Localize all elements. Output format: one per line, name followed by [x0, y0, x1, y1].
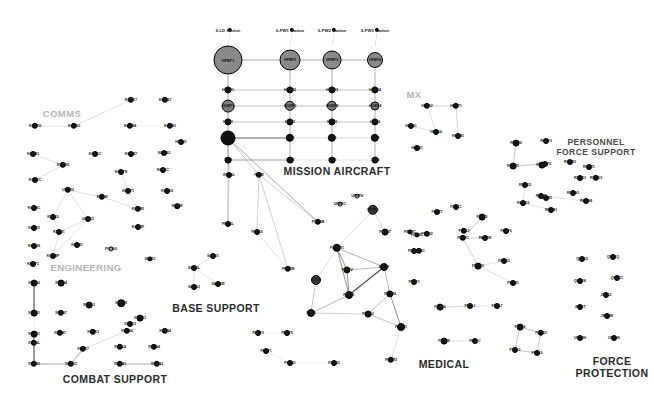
graph-node-label: RGBB1: [540, 196, 552, 200]
graph-node-label: HFBA4: [430, 130, 441, 134]
graph-node-label: HGBP3: [326, 104, 338, 108]
graph-node-label: FEBB6: [434, 305, 445, 309]
graph-node-label: XGBB4: [55, 281, 67, 285]
graph-node-label: HFBP4: [369, 58, 380, 62]
graph-node-label: XGBK8: [115, 301, 127, 305]
graph-node-label: HGB3: [327, 120, 337, 124]
station-label: 6-LD Station: [216, 28, 241, 33]
graph-node-label: XGBK3: [124, 322, 136, 326]
graph-node-label: UFMP4: [351, 194, 363, 198]
cluster-label-base-support: BASE SUPPORT: [172, 302, 260, 314]
graph-node-label: KGBD0: [161, 189, 173, 193]
graph-node-label: KGBTN: [115, 170, 127, 174]
graph-node-label: HFBP2: [284, 58, 296, 62]
graph-node-label: XGBB1: [28, 332, 40, 336]
graph-node-label: FBBE: [254, 173, 263, 177]
graph-node-label: RGBN1: [567, 191, 579, 195]
graph-node-label: XGBK3: [87, 330, 99, 334]
graph-node-label: KFBE3: [28, 226, 39, 230]
graph-node-label: FEBH1: [343, 293, 354, 297]
cluster-label-mx: MX: [406, 90, 421, 101]
cluster-label-combat-support: COMBAT SUPPORT: [63, 373, 168, 385]
graph-node-label: RGBD3: [590, 176, 602, 180]
graph-node-label: XWBA2: [151, 362, 163, 366]
graph-node-label: FEBB8: [438, 339, 449, 343]
graph-node-label: KGBK7: [125, 98, 137, 102]
network-diagram-canvas: HFBP1HFBP2HFBP3HFBP4HFBB1HFBB2HFBB3HFBB4…: [0, 0, 654, 403]
graph-node-label: HFBM1: [452, 134, 464, 138]
graph-node-label: SABG1: [207, 254, 219, 258]
graph-node-label: RGBD3: [517, 201, 529, 205]
graph-node-label: KFBAL: [223, 173, 235, 177]
graph-node-label: PKBAL: [222, 222, 234, 226]
graph-node-label: FEBT7: [432, 210, 443, 214]
station-label: 6-PW2 Station: [318, 28, 346, 33]
graph-node-label: NGBCC: [157, 168, 170, 172]
graph-node-label: FKBGM: [282, 267, 295, 271]
graph-node-label: HFBB1: [222, 88, 234, 92]
graph-node-label: XGBK4: [114, 345, 126, 349]
graph-node-label: JFBHW: [601, 314, 613, 318]
graph-node-label: FEBBC: [404, 230, 416, 234]
graph-node-label: UFMKX: [82, 217, 94, 221]
graph-node-label: FEBP6: [500, 229, 511, 233]
graph-node-label: KGBT1: [122, 189, 134, 193]
graph-node-label: XGBB7: [54, 331, 66, 335]
graph-node-label: FEBB2: [421, 232, 432, 236]
graph-node-label: 36B2: [286, 158, 294, 162]
graph-node-label: HGB1: [223, 120, 233, 124]
graph-node-label: FEBT5: [477, 215, 488, 219]
graph-node-label: QFBK0: [576, 257, 588, 261]
graph-node-label: UFBHK: [608, 336, 620, 340]
station-label: 6-PW3 Station: [361, 28, 389, 33]
graph-node-label: KGBM1: [132, 207, 144, 211]
graph-node-label: FEBL2: [459, 229, 470, 233]
graph-node-label: XGBA4: [148, 345, 160, 349]
graph-node-label: FEBP1: [408, 280, 419, 284]
graph-node-label: FEBM3: [385, 358, 397, 362]
graph-node-label: FEBL9: [515, 325, 526, 329]
graph-node-label: 36B1: [224, 158, 232, 162]
station-label: 6-PW1 Station: [276, 28, 304, 33]
graph-node-label: FEBBR1: [330, 246, 344, 250]
cluster-label-mission-aircraft: MISSION AIRCRAFT: [284, 165, 391, 177]
graph-node-label: FEBC1: [450, 205, 461, 209]
cluster-label-medical: MEDICAL: [419, 358, 470, 370]
graph-node-label: FEBM1: [395, 325, 407, 329]
graph-node-label: RGBB1: [545, 208, 557, 212]
graph-node-label: 36A2: [286, 136, 294, 140]
graph-node-label: RGBD5: [519, 183, 531, 187]
graph-node-label: KGBK0: [68, 124, 80, 128]
graph-node-label: SABG3: [188, 285, 200, 289]
graph-node-label: UFMEC: [334, 202, 346, 206]
graph-node-label: KGBB1: [164, 124, 176, 128]
graph-node-label: FEBP1: [260, 349, 271, 353]
graph-node-label: HGBP1: [222, 104, 234, 108]
graph-node-label: 36A4: [371, 136, 379, 140]
graph-node-label: HFBH1: [175, 140, 186, 144]
cluster-label-force-protection: FORCE PROTECTION: [576, 355, 649, 379]
graph-node-label: FEBL1: [465, 304, 476, 308]
graph-node-label: RGBM: [536, 194, 547, 198]
graph-node-label: RGBP2: [539, 162, 551, 166]
graph-node-label: HGB4: [370, 120, 380, 124]
graph-node-label: RGBF2: [536, 163, 548, 167]
graph-node-label: XGBAL: [28, 341, 40, 345]
graph-node-label: KFBK0: [47, 215, 58, 219]
graph-node-label: UFBHH: [574, 336, 586, 340]
cluster-label-comms: COMMS: [43, 109, 81, 120]
graph-node-label: FEBP5: [281, 331, 292, 335]
graph-node-label: XGBK7: [77, 347, 89, 351]
graph-node-label: FEBL7: [492, 304, 503, 308]
graph-node-label: FEBM: [379, 265, 389, 269]
graph-node-label: RGBD1: [574, 176, 586, 180]
graph-node-label: RGBB4: [580, 199, 592, 203]
graph-node-label: RGBX1: [583, 165, 595, 169]
graph-node-label: FEBB1: [507, 281, 518, 285]
graph-node-label: NGBW: [172, 204, 183, 208]
graph-node-label: FEBA2: [362, 312, 373, 316]
graph-node-label: XGBK3: [83, 303, 95, 307]
graph-node-label: JFBCT: [574, 305, 585, 309]
graph-node-label: KGBM: [97, 195, 108, 199]
graph-node-label: KGBCC: [29, 178, 42, 182]
